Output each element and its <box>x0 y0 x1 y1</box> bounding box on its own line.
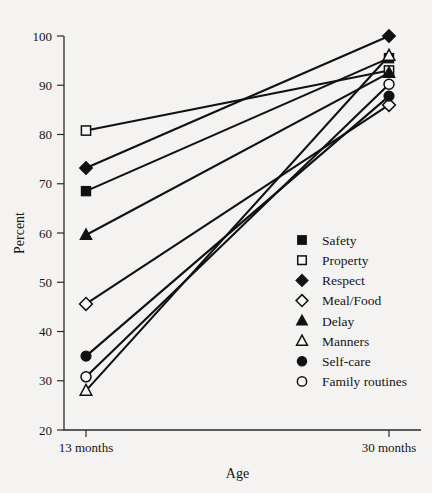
legend-label: Respect <box>322 273 365 288</box>
y-tick-label: 100 <box>33 29 53 44</box>
legend-label: Manners <box>322 334 369 349</box>
series-line <box>86 58 389 191</box>
legend-label: Self-care <box>322 354 371 369</box>
legend-item-meal-food: Meal/Food <box>296 293 381 308</box>
open-circle-marker-start <box>81 372 91 382</box>
open-diamond-marker-start <box>80 298 93 311</box>
filled-circle-marker-end <box>384 91 394 101</box>
x-tick-label: 30 months <box>362 440 417 455</box>
filled-triangle-marker-legend <box>297 315 308 325</box>
legend-label: Meal/Food <box>322 293 381 308</box>
y-tick-label: 80 <box>39 127 52 142</box>
y-tick-label: 90 <box>39 78 52 93</box>
series-line <box>86 73 389 235</box>
open-diamond-marker-legend <box>296 295 308 307</box>
legend-label: Family routines <box>322 374 407 389</box>
legend: SafetyPropertyRespectMeal/FoodDelayManne… <box>296 233 407 389</box>
legend-label: Safety <box>322 233 357 248</box>
filled-diamond-marker-end <box>383 30 396 43</box>
legend-item-manners: Manners <box>297 334 370 349</box>
open-circle-marker-end <box>384 79 394 89</box>
y-tick-label: 70 <box>39 176 52 191</box>
y-tick-label: 40 <box>39 324 52 339</box>
axis-lines <box>64 36 421 430</box>
y-tick-label: 60 <box>39 226 52 241</box>
legend-item-delay: Delay <box>297 314 355 329</box>
chart-figure: 203040506070809010013 months30 months Sa… <box>0 0 432 493</box>
open-square-marker-legend <box>298 256 307 265</box>
legend-label: Property <box>322 253 369 268</box>
y-axis-title: Percent <box>12 212 27 254</box>
legend-item-respect: Respect <box>296 273 365 288</box>
series-line <box>86 36 389 168</box>
filled-square-marker-legend <box>298 236 307 245</box>
filled-diamond-marker-start <box>80 162 93 175</box>
x-axis-title: Age <box>226 466 249 481</box>
y-tick-label: 20 <box>39 423 52 438</box>
filled-circle-marker-start <box>81 351 91 361</box>
filled-square-marker-start <box>81 187 90 196</box>
legend-label: Delay <box>322 314 354 329</box>
series-delay <box>80 67 395 240</box>
y-tick-label: 30 <box>39 373 52 388</box>
y-tick-label: 50 <box>39 275 52 290</box>
open-square-marker-start <box>81 126 90 135</box>
filled-circle-marker-legend <box>297 357 306 366</box>
legend-item-self-care: Self-care <box>297 354 370 369</box>
legend-item-family-routines: Family routines <box>297 374 407 389</box>
series-line <box>86 70 389 130</box>
x-tick-label: 13 months <box>59 440 114 455</box>
legend-item-safety: Safety <box>298 233 357 248</box>
filled-diamond-marker-legend <box>296 274 308 286</box>
legend-item-property: Property <box>298 253 369 268</box>
open-triangle-marker-legend <box>297 335 308 345</box>
open-circle-marker-legend <box>297 377 306 386</box>
filled-triangle-marker-start <box>80 229 92 240</box>
slope-chart: 203040506070809010013 months30 months Sa… <box>0 0 432 493</box>
